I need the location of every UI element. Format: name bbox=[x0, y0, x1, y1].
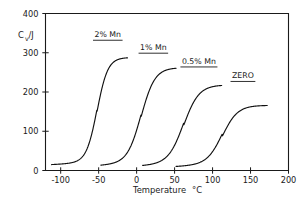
y-tick-label: 300 bbox=[23, 48, 39, 58]
curve-2-mn bbox=[52, 58, 128, 165]
x-tick-label: 50 bbox=[169, 175, 179, 185]
chart-figure: 0100200300400 -100-50050100150200 2% Mn1… bbox=[0, 0, 308, 202]
series-annotations: 2% Mn1% Mn0.5% MnZERO bbox=[93, 30, 255, 81]
x-axis-unit-label: °C bbox=[192, 185, 202, 195]
x-tick-label: 100 bbox=[205, 175, 221, 185]
y-tick-label: 400 bbox=[23, 9, 39, 19]
series-label-1-mn: 1% Mn bbox=[140, 43, 167, 52]
curve-1-mn bbox=[101, 68, 176, 165]
x-tick-label: -50 bbox=[92, 175, 105, 185]
chart-plot-area: 0100200300400 -100-50050100150200 2% Mn1… bbox=[0, 0, 308, 202]
y-tick-label: 200 bbox=[23, 87, 39, 97]
series-label-2-mn: 2% Mn bbox=[95, 30, 122, 39]
axis-frame bbox=[46, 14, 289, 171]
y-tick-label: 0 bbox=[33, 166, 38, 176]
x-tick-label: 200 bbox=[281, 175, 297, 185]
series-label-zero: ZERO bbox=[232, 71, 254, 80]
y-axis-label-units: /J bbox=[29, 30, 34, 40]
curve-zero bbox=[176, 106, 267, 167]
y-tick-label: 100 bbox=[23, 126, 39, 136]
x-axis-ticks: -100-50050100150200 bbox=[51, 167, 296, 184]
plot-frame bbox=[46, 14, 289, 171]
y-axis-label-main: C bbox=[18, 30, 24, 40]
x-tick-label: -100 bbox=[51, 175, 70, 185]
x-axis-label: Temperature bbox=[132, 185, 186, 195]
x-tick-label: 150 bbox=[243, 175, 259, 185]
curve-0-5-mn bbox=[143, 85, 222, 165]
x-tick-label: 0 bbox=[134, 175, 139, 185]
series-label-0-5-mn: 0.5% Mn bbox=[182, 57, 216, 66]
